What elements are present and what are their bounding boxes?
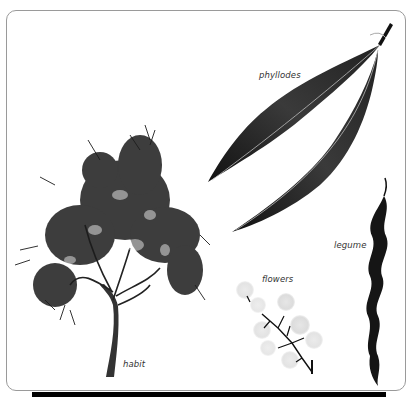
phyllodes-label: phyllodes	[259, 70, 301, 80]
legume-label: legume	[334, 240, 366, 250]
habit-drawing	[15, 125, 210, 377]
bottom-bar	[32, 392, 386, 397]
habit-label: habit	[123, 359, 145, 369]
phyllodes-drawing	[208, 23, 393, 232]
botanical-illustration	[0, 0, 414, 397]
legume-drawing	[366, 178, 387, 386]
flowers-label: flowers	[262, 274, 293, 284]
flowers-drawing	[236, 281, 323, 374]
